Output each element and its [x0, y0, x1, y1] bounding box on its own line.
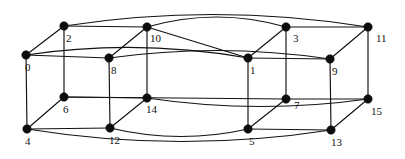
vertex-label-15: 15 [371, 105, 383, 117]
vertex-label-3: 3 [293, 32, 299, 44]
vertex-label-2: 2 [66, 32, 72, 44]
graph-edge [248, 58, 330, 59]
graph-edge [64, 14, 368, 27]
graph-vertex-2 [60, 22, 68, 30]
graph-vertex-4 [23, 125, 31, 133]
graph-vertex-5 [244, 125, 252, 133]
graph-edge [27, 97, 64, 129]
graph-edge [330, 27, 368, 59]
vertex-label-9: 9 [332, 65, 338, 77]
graph-edge [110, 128, 248, 137]
graph-edge [330, 59, 331, 130]
graph-vertex-8 [105, 54, 113, 62]
graph-vertex-9 [326, 55, 334, 63]
graph-edge [147, 27, 248, 58]
graph-diagram: 0123456789101112131415 [0, 0, 405, 159]
graph-edge [110, 98, 147, 128]
graph-vertex-14 [143, 94, 151, 102]
graph-edge [331, 99, 368, 130]
vertex-label-10: 10 [150, 32, 162, 44]
vertex-label-5: 5 [249, 135, 255, 147]
graph-edge [109, 27, 147, 58]
vertex-label-8: 8 [111, 64, 117, 76]
graph-edge [64, 97, 286, 99]
vertex-label-11: 11 [376, 32, 387, 44]
vertex-label-14: 14 [146, 103, 158, 115]
graph-edge [27, 128, 110, 129]
graph-edge [109, 50, 330, 59]
graph-edge [26, 55, 109, 58]
vertex-label-6: 6 [63, 103, 69, 115]
graph-vertex-7 [282, 95, 290, 103]
graph-vertex-15 [364, 95, 372, 103]
vertex-layer [22, 22, 372, 134]
graph-vertex-0 [22, 51, 30, 59]
vertex-label-12: 12 [109, 134, 120, 146]
edge-layer [26, 14, 368, 141]
graph-edge [27, 129, 331, 142]
graph-vertex-6 [60, 93, 68, 101]
graph-canvas: 0123456789101112131415 [0, 0, 405, 159]
graph-edge [109, 58, 110, 128]
vertex-label-1: 1 [250, 64, 256, 76]
graph-edge [248, 129, 331, 130]
graph-edge [64, 26, 147, 27]
graph-vertex-13 [327, 126, 335, 134]
graph-edge [248, 99, 286, 129]
vertex-label-4: 4 [25, 135, 31, 147]
graph-vertex-12 [106, 124, 114, 132]
vertex-label-13: 13 [331, 136, 343, 148]
vertex-label-7: 7 [294, 99, 300, 111]
graph-vertex-1 [244, 54, 252, 62]
graph-vertex-10 [143, 23, 151, 31]
graph-vertex-3 [282, 23, 290, 31]
graph-vertex-11 [364, 23, 372, 31]
vertex-label-0: 0 [25, 61, 31, 73]
graph-edge [147, 17, 286, 27]
